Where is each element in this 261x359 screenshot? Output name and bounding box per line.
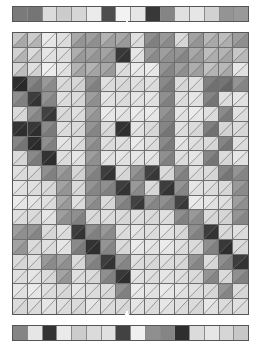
cell-diagonal-line-icon (72, 166, 86, 180)
matrix-cell (175, 63, 190, 78)
matrix-cell (219, 181, 234, 196)
cell-diagonal-line-icon (160, 225, 174, 239)
matrix-cell (72, 137, 87, 152)
top-marginal-cell (57, 7, 72, 21)
cell-diagonal-line-icon (189, 63, 203, 77)
matrix-cell (13, 196, 28, 211)
cell-diagonal-line-icon (72, 255, 86, 269)
matrix-cell (175, 151, 190, 166)
cell-diagonal-line-icon (72, 284, 86, 298)
matrix-cell (72, 196, 87, 211)
matrix-cell (175, 210, 190, 225)
matrix-cell (160, 77, 175, 92)
bottom-marginal-cell (190, 326, 205, 340)
matrix-cell (86, 107, 101, 122)
cell-diagonal-line-icon (101, 33, 115, 47)
matrix-cell (116, 151, 131, 166)
cell-diagonal-line-icon (131, 181, 145, 195)
matrix-cell (145, 284, 160, 299)
matrix-cell (160, 166, 175, 181)
cell-diagonal-line-icon (86, 107, 100, 121)
cell-diagonal-line-icon (116, 284, 130, 298)
cell-diagonal-line-icon (42, 166, 56, 180)
matrix-cell (204, 33, 219, 48)
matrix-cell (57, 181, 72, 196)
matrix-cell (101, 63, 116, 78)
matrix-cell (219, 299, 234, 314)
cell-diagonal-line-icon (131, 225, 145, 239)
cell-diagonal-line-icon (160, 181, 174, 195)
cell-diagonal-line-icon (233, 225, 248, 239)
cell-diagonal-line-icon (101, 270, 115, 284)
cell-diagonal-line-icon (13, 107, 27, 121)
matrix-cell (219, 255, 234, 270)
matrix-cell (131, 137, 146, 152)
matrix-cell (72, 284, 87, 299)
matrix-cell (204, 107, 219, 122)
matrix-cell (57, 33, 72, 48)
cell-diagonal-line-icon (145, 92, 159, 106)
cell-diagonal-line-icon (101, 255, 115, 269)
cell-diagonal-line-icon (189, 77, 203, 91)
cell-diagonal-line-icon (189, 151, 203, 165)
cell-diagonal-line-icon (13, 270, 27, 284)
matrix-cell (13, 92, 28, 107)
matrix-cell (13, 181, 28, 196)
cell-diagonal-line-icon (233, 166, 248, 180)
matrix-cell (42, 33, 57, 48)
matrix-cell (175, 225, 190, 240)
cell-diagonal-line-icon (28, 33, 42, 47)
cell-diagonal-line-icon (72, 122, 86, 136)
cell-diagonal-line-icon (86, 284, 100, 298)
bottom-marginal-cell (146, 326, 161, 340)
cell-diagonal-line-icon (13, 240, 27, 254)
matrix-cell (42, 181, 57, 196)
cell-diagonal-line-icon (204, 63, 218, 77)
cell-diagonal-line-icon (57, 33, 71, 47)
matrix-cell (233, 122, 248, 137)
matrix-cell (101, 196, 116, 211)
cell-diagonal-line-icon (219, 63, 233, 77)
pointer-head (124, 311, 130, 316)
matrix-cell (72, 210, 87, 225)
matrix-cell (57, 284, 72, 299)
matrix-cell (233, 137, 248, 152)
matrix-cell (42, 166, 57, 181)
cell-diagonal-line-icon (219, 48, 233, 62)
matrix-cell (131, 284, 146, 299)
cell-diagonal-line-icon (42, 33, 56, 47)
matrix-cell (57, 196, 72, 211)
matrix-cell (233, 225, 248, 240)
cell-diagonal-line-icon (42, 77, 56, 91)
cell-diagonal-line-icon (28, 92, 42, 106)
cell-diagonal-line-icon (145, 48, 159, 62)
matrix-cell (175, 122, 190, 137)
top-marginal-cell (161, 7, 176, 21)
cell-diagonal-line-icon (86, 33, 100, 47)
cell-diagonal-line-icon (116, 255, 130, 269)
cell-diagonal-line-icon (86, 77, 100, 91)
matrix-cell (42, 63, 57, 78)
cell-diagonal-line-icon (28, 77, 42, 91)
cell-diagonal-line-icon (57, 181, 71, 195)
cell-diagonal-line-icon (204, 107, 218, 121)
matrix-cell (145, 255, 160, 270)
cell-diagonal-line-icon (175, 270, 189, 284)
matrix-cell (101, 225, 116, 240)
matrix-cell (131, 255, 146, 270)
matrix-cell (57, 225, 72, 240)
matrix-cell (145, 107, 160, 122)
matrix-cell (175, 255, 190, 270)
cell-diagonal-line-icon (116, 270, 130, 284)
cell-diagonal-line-icon (116, 33, 130, 47)
cell-diagonal-line-icon (57, 63, 71, 77)
cell-diagonal-line-icon (116, 225, 130, 239)
bottom-marginal-cell (13, 326, 28, 340)
cell-diagonal-line-icon (42, 284, 56, 298)
matrix-cell (86, 225, 101, 240)
matrix-cell (57, 255, 72, 270)
cell-diagonal-line-icon (57, 151, 71, 165)
matrix-cell (189, 181, 204, 196)
matrix-cell (86, 284, 101, 299)
matrix-cell (145, 240, 160, 255)
